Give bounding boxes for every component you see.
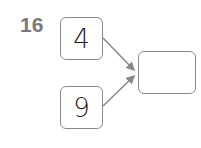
arrows xyxy=(0,0,201,148)
arrow-icon xyxy=(103,76,134,106)
arrow-icon xyxy=(103,38,134,70)
